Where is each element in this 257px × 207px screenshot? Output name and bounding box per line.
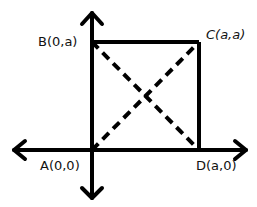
diagonals (92, 42, 199, 150)
x-axis (14, 141, 246, 159)
point-d-label: D(a,0) (196, 159, 237, 172)
point-a-label: A(0,0) (40, 159, 80, 172)
point-b-label: B(0,a) (38, 35, 77, 48)
point-c-label: C(a,a) (206, 28, 245, 41)
